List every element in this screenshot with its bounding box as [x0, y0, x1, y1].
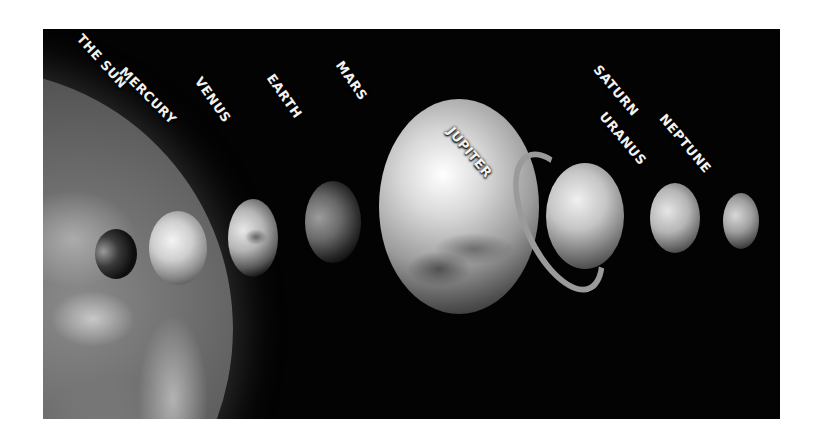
- mercury-image: [95, 229, 137, 279]
- uranus-image: [650, 183, 700, 253]
- solar-system-illustration: THE SUN MERCURY VENUS EARTH MARS JUPITER…: [43, 29, 780, 419]
- venus-image: [149, 211, 207, 285]
- label-the-sun: THE SUN: [74, 31, 130, 91]
- label-uranus: URANUS: [597, 109, 650, 168]
- label-venus: VENUS: [192, 74, 234, 125]
- neptune-image: [723, 193, 759, 249]
- saturn-image: [546, 163, 624, 269]
- label-mercury: MERCURY: [116, 64, 179, 127]
- earth-image: [228, 199, 278, 277]
- label-neptune: NEPTUNE: [657, 111, 715, 176]
- label-mars: MARS: [333, 58, 371, 103]
- label-saturn: SATURN: [591, 62, 642, 119]
- label-earth: EARTH: [264, 71, 305, 121]
- mars-image: [305, 181, 361, 263]
